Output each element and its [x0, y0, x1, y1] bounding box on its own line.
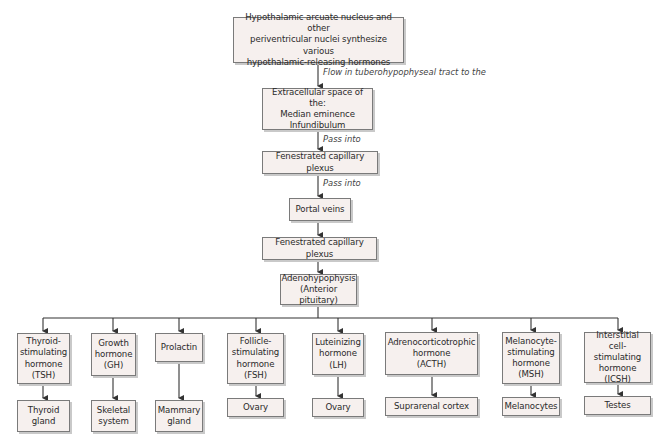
pass-into-label-1: Pass into — [323, 134, 361, 144]
target-box-skeletal: Skeletal system — [91, 400, 136, 432]
target-box-ovary-lh: Ovary — [312, 398, 364, 417]
capillary-plexus-box-1: Fenestrated capillary plexus — [262, 151, 378, 174]
portal-veins-box: Portal veins — [289, 198, 351, 221]
target-box-mammary: Mammary gland — [155, 400, 203, 432]
target-box-testes: Testes — [584, 396, 651, 415]
capillary-plexus-box-2: Fenestrated capillary plexus — [262, 237, 377, 260]
hypothalamus-box: Hypothalamic arcuate nucleus and other p… — [233, 17, 404, 63]
hormone-box-icsh: Interstitial cell- stimulating hormone (… — [584, 332, 651, 383]
hormone-box-prolactin: Prolactin — [155, 333, 203, 362]
hormone-box-fsh: Follicle- stimulating hormone (FSH) — [227, 333, 284, 384]
target-box-ovary-fsh: Ovary — [227, 398, 284, 417]
hormone-box-tsh: Thyroid- stimulating hormone (TSH) — [17, 333, 70, 384]
target-box-melanocytes: Melanocytes — [502, 397, 560, 416]
adenohypophysis-box: Adenohypophysis (Anterior pituitary) — [280, 274, 357, 305]
target-box-suprarenal: Suprarenal cortex — [385, 397, 478, 416]
flow-label: Flow in tuberohypophyseal tract to the — [323, 67, 486, 77]
hormone-box-acth: Adrenocorticotrophic hormone (ACTH) — [385, 332, 478, 375]
hormone-box-lh: Luteinizing hormone (LH) — [312, 333, 364, 375]
pass-into-label-2: Pass into — [323, 178, 361, 188]
hormone-box-msh: Melanocyte- stimulating hormone (MSH) — [502, 332, 560, 384]
extracellular-box: Extracellular space of the: Median emine… — [262, 88, 373, 130]
pituitary-flowchart: Hypothalamic arcuate nucleus and other p… — [0, 0, 671, 441]
hormone-box-gh: Growth hormone (GH) — [91, 333, 136, 376]
target-box-thyroid: Thyroid gland — [17, 400, 70, 432]
